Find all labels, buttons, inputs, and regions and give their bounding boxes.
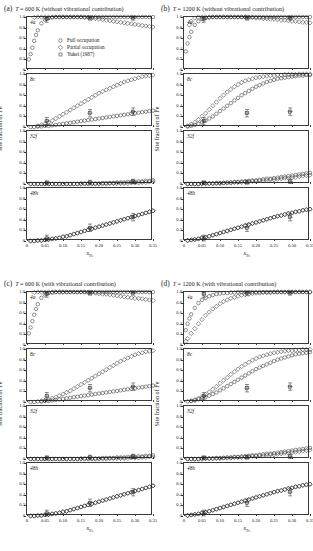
- y-tick-mark: [24, 173, 26, 174]
- data-markers: [27, 463, 153, 516]
- x-axis-ticks: 00.050.100.150.200.250.300.35xFe: [184, 516, 310, 528]
- data-markers: [184, 463, 310, 516]
- x-tick-mark: [310, 182, 311, 184]
- x-axis-label: xFe: [244, 525, 251, 533]
- x-axis-label: xFe: [87, 250, 94, 258]
- y-tick-mark: [24, 438, 26, 439]
- legend: Full occupationPartial occupationYukei (…: [57, 37, 105, 58]
- y-tick-mark: [181, 131, 183, 132]
- data-markers: [184, 74, 310, 127]
- y-tick-mark: [24, 188, 26, 189]
- x-tick-label: 0: [26, 244, 28, 249]
- site-label: 32f: [187, 408, 194, 414]
- y-tick-mark: [181, 163, 183, 164]
- y-axis-ticks: 00.20.40.60.81.0: [12, 463, 26, 516]
- subplot-48h: 48h00.20.40.60.81.000.050.100.150.200.25…: [183, 462, 309, 515]
- x-tick-label: 0.10: [59, 244, 67, 249]
- x-tick-mark: [153, 239, 154, 241]
- y-tick-mark: [24, 334, 26, 335]
- y-axis-ticks: 00.20.40.60.81.0: [169, 349, 183, 402]
- y-tick-mark: [181, 516, 183, 517]
- data-markers: [27, 406, 153, 459]
- subplot-48h: 48h00.20.40.60.81.000.050.100.150.200.25…: [26, 462, 152, 515]
- panel-a: (a)T = 600 K (without vibrational contri…: [0, 2, 156, 274]
- y-tick-mark: [181, 303, 183, 304]
- y-tick-mark: [181, 505, 183, 506]
- x-axis-ticks: 00.050.100.150.200.250.300.35xFe: [184, 241, 310, 253]
- subplot-stack: 4a00.20.40.60.81.08c00.20.40.60.81.032f0…: [183, 16, 309, 240]
- y-tick-mark: [181, 106, 183, 107]
- site-label: 48h: [187, 190, 195, 196]
- subplot-32f: 32f00.20.40.60.81.0: [26, 130, 152, 183]
- y-tick-mark: [24, 152, 26, 153]
- y-axis-ticks: 00.20.40.60.81.0: [169, 292, 183, 345]
- site-label: 48h: [30, 190, 38, 196]
- y-tick-mark: [181, 391, 183, 392]
- site-label: 48h: [187, 465, 195, 471]
- data-markers: [184, 349, 310, 402]
- x-tick-label: 0.20: [252, 244, 260, 249]
- site-label: 4a: [187, 19, 192, 25]
- y-tick-mark: [181, 360, 183, 361]
- y-tick-mark: [181, 230, 183, 231]
- y-axis-label: Site fraction of Fe: [153, 107, 160, 152]
- y-axis-ticks: 00.20.40.60.81.0: [12, 292, 26, 345]
- y-tick-mark: [24, 474, 26, 475]
- y-tick-mark: [24, 324, 26, 325]
- y-tick-mark: [24, 292, 26, 293]
- y-tick-mark: [181, 209, 183, 210]
- x-tick-label: 0.35: [306, 244, 313, 249]
- y-axis-label: Site fraction of Fe: [0, 382, 3, 427]
- site-label: 32f: [30, 133, 37, 139]
- y-axis-ticks: 00.20.40.60.81.0: [12, 131, 26, 184]
- figure-canvas: (a)T = 600 K (without vibrational contri…: [0, 0, 313, 551]
- x-axis-label: xFe: [244, 250, 251, 258]
- y-tick-mark: [181, 199, 183, 200]
- y-axis-label-wrap: Site fraction of Fe: [3, 291, 12, 517]
- y-tick-mark: [24, 17, 26, 18]
- legend-marker-square-open: [57, 51, 64, 58]
- x-tick-label: 0.25: [113, 244, 121, 249]
- y-tick-mark: [24, 484, 26, 485]
- y-tick-mark: [24, 163, 26, 164]
- subplot-stack: 4a00.20.40.60.81.08c00.20.40.60.81.032f0…: [183, 291, 309, 515]
- subplot-4a: 4a00.20.40.60.81.0: [183, 291, 309, 344]
- x-tick-label: 0.30: [131, 244, 139, 249]
- data-markers: [27, 74, 153, 127]
- site-label: 8c: [187, 76, 192, 82]
- subplot-48h: 48h00.20.40.60.81.000.050.100.150.200.25…: [26, 187, 152, 240]
- y-axis-label-wrap: Site fraction of Fe: [160, 16, 169, 242]
- legend-marker-circle-open: [57, 37, 64, 44]
- subplot-32f: 32f00.20.40.60.81.0: [183, 405, 309, 458]
- y-tick-mark: [181, 406, 183, 407]
- subplot-8c: 8c00.20.40.60.81.0: [26, 348, 152, 401]
- y-tick-mark: [24, 360, 26, 361]
- y-tick-mark: [24, 427, 26, 428]
- y-tick-mark: [181, 142, 183, 143]
- y-tick-mark: [24, 349, 26, 350]
- site-label: 8c: [30, 76, 35, 82]
- site-label: 48h: [30, 465, 38, 471]
- x-tick-mark: [153, 68, 154, 70]
- y-tick-mark: [24, 230, 26, 231]
- x-tick-label: 0.05: [41, 244, 49, 249]
- y-tick-mark: [181, 484, 183, 485]
- x-tick-label: 0.30: [131, 519, 139, 524]
- x-axis-ticks: 00.050.100.150.200.250.300.35xFe: [27, 516, 153, 528]
- site-label: 4a: [187, 294, 192, 300]
- y-axis-label: Site fraction of Fe: [153, 382, 160, 427]
- x-tick-label: 0: [183, 519, 185, 524]
- x-tick-label: 0.20: [252, 519, 260, 524]
- data-markers: [184, 406, 310, 459]
- y-axis-label-wrap: Site fraction of Fe: [160, 291, 169, 517]
- y-tick-mark: [24, 406, 26, 407]
- y-tick-mark: [24, 95, 26, 96]
- site-label: 32f: [187, 133, 194, 139]
- y-tick-mark: [181, 427, 183, 428]
- y-tick-mark: [181, 474, 183, 475]
- data-markers: [27, 131, 153, 184]
- y-tick-mark: [24, 59, 26, 60]
- y-tick-mark: [181, 334, 183, 335]
- x-tick-label: 0.15: [234, 519, 242, 524]
- y-tick-mark: [24, 209, 26, 210]
